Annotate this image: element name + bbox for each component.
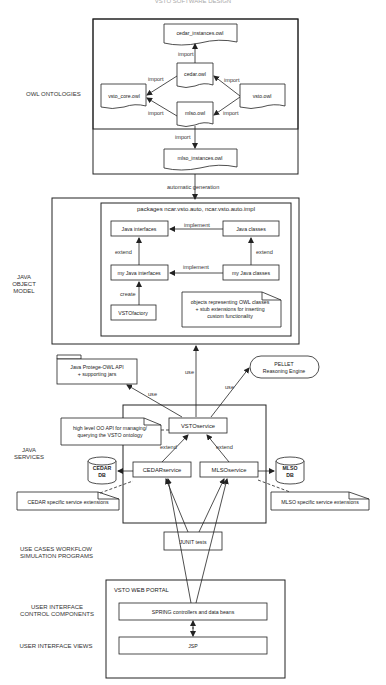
edge-label-extend: extend — [160, 444, 177, 450]
edge-label-import: import — [224, 77, 240, 83]
doc-label: mlso_instances.owl — [178, 155, 223, 161]
doc-cedar-instances[interactable]: cedar_instances.owl — [164, 24, 237, 45]
note-line: CEDAR specific service extensions — [27, 499, 108, 505]
box-label: Java interfaces — [122, 226, 157, 232]
note-line: + stub extensions for inserting — [195, 306, 264, 312]
box-my-java-interfaces[interactable]: my Java interfaces — [111, 265, 168, 280]
note-objects-representing-owl: objects representing OWL classes + stub … — [182, 292, 281, 327]
doc-label: vsto_core.owl — [108, 93, 140, 99]
layer-label-ui-views: USER INTERFACE VIEWS — [19, 643, 92, 649]
pellet-label: Reasoning Engine — [263, 368, 306, 374]
edge-label-import: import — [223, 110, 239, 116]
doc-label: vsto.owl — [253, 93, 272, 99]
db-label: CEDAR — [93, 465, 112, 471]
box-label: MLSOservice — [212, 467, 247, 473]
note-line: querying the VSTO ontology — [77, 432, 142, 438]
edge-label-implement: implement — [183, 264, 209, 270]
pellet-label: PELLET — [274, 361, 294, 367]
db-label: DB — [286, 472, 294, 478]
doc-mlso[interactable]: mlso.owl — [177, 102, 213, 127]
web-portal-title: VSTO WEB PORTAL — [114, 587, 170, 593]
box-jsp[interactable]: JSP — [119, 637, 267, 654]
edge-label-automatic-generation: automatic generation — [167, 184, 219, 190]
package-title: packages ncar.vsto.auto, ncar.vsto.auto.… — [137, 206, 255, 212]
layer-label-line: SERVICES — [14, 454, 44, 460]
doc-label: cedar_instances.owl — [176, 30, 223, 36]
edge-label-extend: extend — [115, 249, 132, 255]
edge-label-import: import — [148, 76, 164, 82]
box-my-java-classes[interactable]: my Java classes — [223, 265, 279, 280]
edge-label-extend: extend — [256, 249, 273, 255]
box-label: SPRING controllers and data beans — [152, 609, 235, 615]
doc-vsto-core[interactable]: vsto_core.owl — [101, 84, 146, 109]
edge-label-implement: implement — [184, 222, 210, 228]
folder-label: Java Protege-OWL API — [70, 364, 123, 370]
box-label: my Java interfaces — [117, 270, 161, 276]
architecture-diagram: VSTO SOFTWARE DESIGN OWL ONTOLOGIES ceda… — [0, 0, 386, 685]
edge-label-create: create — [120, 291, 136, 297]
pellet-reasoning-engine[interactable]: PELLET Reasoning Engine — [250, 356, 319, 378]
layer-label-java-object-model: JAVA — [17, 274, 31, 280]
box-label: VSTOfactory — [118, 310, 148, 316]
edge-label-use: use — [148, 391, 157, 397]
box-label: CEDARservice — [143, 467, 182, 473]
layer-label-line: CONTROL COMPONENTS — [20, 611, 94, 617]
note-mlso-extensions: MLSO specific service extensions — [271, 492, 369, 510]
folder-protege-owl-api[interactable]: Java Protege-OWL API + supporting jars — [57, 355, 137, 384]
layer-label-ui-control: USER INTERFACE — [31, 604, 83, 610]
doc-label: cedar.owl — [184, 71, 206, 77]
box-label: my Java classes — [232, 270, 270, 276]
web-portal-frame — [106, 580, 285, 678]
edge-label-import: import — [148, 110, 164, 116]
diagram-title: VSTO SOFTWARE DESIGN — [155, 0, 231, 4]
edge-label-use: use — [225, 384, 234, 390]
layer-label-line: MODEL — [13, 288, 35, 294]
layer-label-line: SIMULATION PROGRAMS — [20, 553, 93, 559]
database-mlso: MLSO DB — [276, 457, 304, 484]
edge-label-use: use — [185, 369, 194, 375]
note-line: MLSO specific service extensions — [281, 499, 359, 505]
note-line: high level OO API for managing/ — [73, 425, 148, 431]
db-label: DB — [98, 472, 106, 478]
box-java-classes[interactable]: Java classes — [223, 221, 279, 236]
layer-label-line: OBJECT — [12, 281, 36, 287]
note-cedar-extensions: CEDAR specific service extensions — [17, 492, 119, 510]
box-java-interfaces[interactable]: Java interfaces — [111, 221, 168, 236]
doc-cedar[interactable]: cedar.owl — [177, 63, 213, 88]
doc-vsto[interactable]: vsto.owl — [240, 84, 285, 109]
box-vsto-service[interactable]: VSTOservice — [169, 418, 227, 433]
edge-label-import: import — [175, 134, 191, 140]
doc-mlso-instances[interactable]: mlso_instances.owl — [164, 149, 237, 170]
note-high-level-api: high level OO API for managing/ querying… — [61, 418, 161, 445]
folder-label: + supporting jars — [78, 371, 117, 377]
database-cedar: CEDAR DB — [88, 457, 116, 484]
note-line: custom functionality — [207, 313, 253, 319]
box-label: JUNIT tests — [180, 539, 207, 545]
box-spring-controllers[interactable]: SPRING controllers and data beans — [119, 603, 267, 620]
box-vsto-factory[interactable]: VSTOfactory — [111, 305, 156, 320]
box-cedar-service[interactable]: CEDARservice — [133, 462, 191, 477]
layer-label-owl: OWL ONTOLOGIES — [26, 91, 81, 97]
edge-label-extend: extend — [216, 444, 233, 450]
layer-label-java-services: JAVA — [22, 447, 36, 453]
box-label: VSTOservice — [181, 423, 215, 429]
box-label: Java classes — [236, 226, 266, 232]
box-mlso-service[interactable]: MLSOservice — [200, 462, 258, 477]
box-label: JSP — [188, 643, 198, 649]
layer-label-use-cases: USE CASES WORKFLOW — [20, 546, 92, 552]
doc-label: mlso.owl — [185, 110, 205, 116]
note-line: objects representing OWL classes — [191, 299, 270, 305]
edge-label-import: import — [178, 51, 194, 57]
db-label: MLSO — [283, 465, 298, 471]
